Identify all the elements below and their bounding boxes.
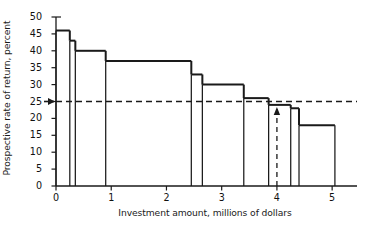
x-axis-tick-label: 2 — [156, 192, 176, 203]
x-axis-tick-label: 4 — [267, 192, 287, 203]
investment-demand-chart: Prospective rate of return, percent Inve… — [0, 0, 371, 232]
x-axis-tick-label: 0 — [46, 192, 66, 203]
x-axis-tick-labels: 012345 — [0, 0, 371, 232]
x-axis-tick-label: 5 — [322, 192, 342, 203]
x-axis-tick-label: 3 — [212, 192, 232, 203]
x-axis-tick-label: 1 — [101, 192, 121, 203]
